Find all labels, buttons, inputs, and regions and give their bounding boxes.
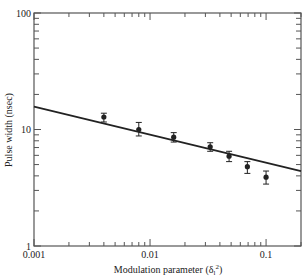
plot-border (34, 13, 301, 246)
data-point (244, 162, 250, 174)
pulse-width-chart: 0.0010.010.1110100 Pulse width (nsec) Mo… (0, 0, 308, 280)
data-marker (136, 127, 141, 132)
axis-ticks (34, 13, 301, 246)
data-points (101, 113, 269, 184)
y-tick-label: 100 (16, 8, 31, 19)
data-marker (101, 114, 106, 119)
plot-frame (34, 13, 301, 246)
y-tick-label: 1 (26, 241, 31, 252)
data-point (263, 171, 269, 184)
data-marker (208, 144, 213, 149)
data-point (136, 122, 142, 136)
y-axis-title: Pulse width (nsec) (3, 93, 15, 167)
data-point (101, 113, 107, 122)
data-marker (171, 135, 176, 140)
fit-line (34, 107, 301, 171)
x-axis-title: Modulation parameter (δl2) (114, 263, 222, 277)
y-tick-label: 10 (21, 124, 31, 135)
data-marker (263, 175, 268, 180)
x-tick-label: 0.01 (141, 249, 159, 260)
data-marker (226, 154, 231, 159)
x-tick-label: 0.1 (260, 249, 273, 260)
fit-line-segment (34, 107, 301, 171)
data-marker (245, 164, 250, 169)
